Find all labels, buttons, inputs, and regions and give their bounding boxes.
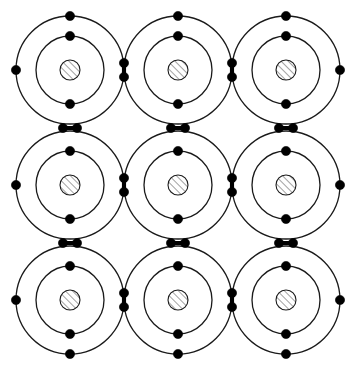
- outer-electron-bottom-r3c2: [173, 349, 182, 358]
- shared-electron-bond-r2c2-r3c2-a: [166, 238, 175, 247]
- inner-electron-atom-r3c3-16: [281, 261, 290, 270]
- outer-electron-bottom-r3c3: [281, 349, 290, 358]
- inner-electron-atom-r1c1-0: [65, 31, 74, 40]
- inner-electron-atom-r3c1-12: [65, 261, 74, 270]
- shared-electron-bond-r1c3-r2c3-a: [274, 123, 283, 132]
- nucleus-atom-r3c1: [60, 290, 80, 310]
- inner-electron-atom-r1c2-3: [173, 99, 182, 108]
- inner-electron-atom-r2c1-7: [65, 214, 74, 223]
- outer-electron-top-r1c2: [173, 11, 182, 20]
- shared-electron-bond-r2c2-r2c3-a: [227, 173, 236, 182]
- shared-electron-bond-r3c2-r3c3-b: [227, 302, 236, 311]
- inner-electron-atom-r3c1-13: [65, 329, 74, 338]
- outer-electron-left-r2c1: [11, 180, 20, 189]
- shared-electron-bond-r2c3-r3c3-a: [274, 238, 283, 247]
- shared-electron-bond-r2c1-r2c2-b: [119, 187, 128, 196]
- shared-electron-bond-r1c2-r1c3-b: [227, 72, 236, 81]
- nucleus-atom-r3c3: [276, 290, 296, 310]
- shared-electron-bond-r1c1-r1c2-b: [119, 72, 128, 81]
- outer-electron-bottom-r3c1: [65, 349, 74, 358]
- shared-electron-bond-r2c1-r2c2-a: [119, 173, 128, 182]
- outer-electron-left-r1c1: [11, 65, 20, 74]
- shared-electron-bond-r2c1-r3c1-b: [72, 238, 81, 247]
- inner-electron-atom-r2c1-6: [65, 146, 74, 155]
- inner-electron-atom-r1c3-4: [281, 31, 290, 40]
- shared-electron-bond-r2c2-r3c2-b: [180, 238, 189, 247]
- inner-electron-atom-r2c3-11: [281, 214, 290, 223]
- shared-electron-bond-r2c1-r3c1-a: [58, 238, 67, 247]
- outer-electron-right-r3c3: [335, 295, 344, 304]
- shared-electron-bond-r1c3-r2c3-b: [288, 123, 297, 132]
- shared-electron-bond-r1c2-r2c2-a: [166, 123, 175, 132]
- inner-electron-atom-r3c2-15: [173, 329, 182, 338]
- shared-electron-bond-r1c2-r1c3-a: [227, 58, 236, 67]
- inner-electron-atom-r1c2-2: [173, 31, 182, 40]
- outer-electron-top-r1c1: [65, 11, 74, 20]
- outer-electron-top-r1c3: [281, 11, 290, 20]
- inner-electron-atom-r3c2-14: [173, 261, 182, 270]
- inner-electron-atom-r2c2-8: [173, 146, 182, 155]
- inner-electron-atom-r3c3-17: [281, 329, 290, 338]
- nucleus-atom-r2c1: [60, 175, 80, 195]
- shared-electron-bond-r1c1-r2c1-a: [58, 123, 67, 132]
- nucleus-atom-r1c3: [276, 60, 296, 80]
- inner-electron-atom-r1c1-1: [65, 99, 74, 108]
- nuclei: [60, 60, 296, 310]
- outer-electron-right-r1c3: [335, 65, 344, 74]
- outer-electron-left-r3c1: [11, 295, 20, 304]
- shared-electron-bond-r1c1-r1c2-a: [119, 58, 128, 67]
- lattice-canvas: [0, 0, 357, 373]
- nucleus-atom-r2c3: [276, 175, 296, 195]
- nucleus-atom-r1c2: [168, 60, 188, 80]
- shared-electron-bond-r3c2-r3c3-a: [227, 288, 236, 297]
- shared-electron-bond-r1c2-r2c2-b: [180, 123, 189, 132]
- shared-electron-bond-r3c1-r3c2-a: [119, 288, 128, 297]
- nucleus-atom-r1c1: [60, 60, 80, 80]
- shared-electron-bond-r2c2-r2c3-b: [227, 187, 236, 196]
- nucleus-atom-r3c2: [168, 290, 188, 310]
- shared-electron-bond-r3c1-r3c2-b: [119, 302, 128, 311]
- inner-electron-atom-r2c3-10: [281, 146, 290, 155]
- covalent-lattice-figure: [0, 0, 357, 373]
- outer-electron-right-r2c3: [335, 180, 344, 189]
- nucleus-atom-r2c2: [168, 175, 188, 195]
- shared-electron-bond-r1c1-r2c1-b: [72, 123, 81, 132]
- shared-electron-bond-r2c3-r3c3-b: [288, 238, 297, 247]
- inner-electron-atom-r2c2-9: [173, 214, 182, 223]
- inner-electron-atom-r1c3-5: [281, 99, 290, 108]
